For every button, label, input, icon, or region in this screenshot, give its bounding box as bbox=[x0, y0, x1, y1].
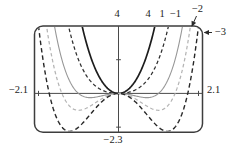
window-ymin-label: −2.3 bbox=[100, 135, 126, 145]
y-axis-max-label: 4 bbox=[113, 9, 121, 19]
curve-label-c-neg3: −3 bbox=[213, 27, 228, 37]
curve-label-c-neg2: −2 bbox=[190, 4, 205, 14]
curve-label-c4: 4 bbox=[144, 9, 152, 19]
arrow-to-curve-c-neg2 bbox=[192, 16, 197, 26]
figure-family-of-curves: 4 4 1 −1 −2 −3 −2.1 2.1 −2.3 bbox=[0, 0, 233, 157]
curve-label-c-neg1: −1 bbox=[168, 9, 183, 19]
window-xmin-label: −2.1 bbox=[3, 85, 28, 95]
window-xmax-label: 2.1 bbox=[207, 85, 220, 95]
curve-label-c1: 1 bbox=[158, 9, 166, 19]
